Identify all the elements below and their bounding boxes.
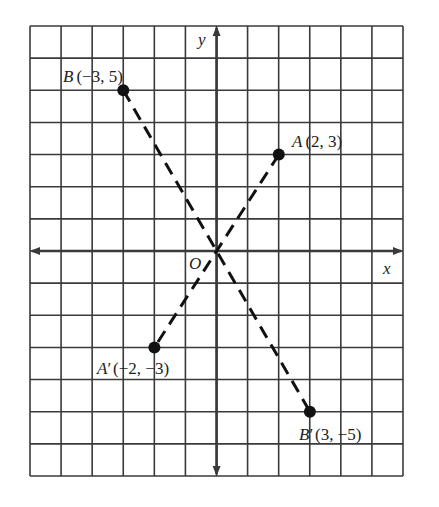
x-axis-label: x [382,259,391,278]
point-b [117,84,129,96]
point-label-a: A(2, 3) [291,132,342,151]
point-b-prime [304,406,316,418]
point-label-b: B(−3, 5) [63,67,123,86]
origin-label: O [189,254,201,273]
point-a [273,149,285,161]
y-axis-label: y [196,30,206,49]
coordinate-plane: y x O B(−3, 5) A(2, 3) A′(−2, −3) B′(3, … [0,0,439,507]
point-label-b-prime: B′(3, −5) [299,425,362,444]
point-label-a-prime: A′(−2, −3) [96,359,169,378]
labels: y x O B(−3, 5) A(2, 3) A′(−2, −3) B′(3, … [63,30,391,444]
point-a-prime [148,341,160,353]
